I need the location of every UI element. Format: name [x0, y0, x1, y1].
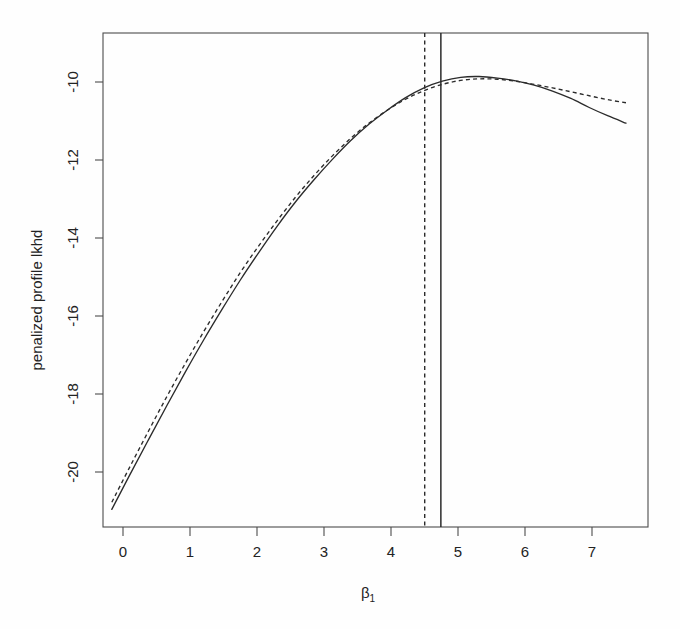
y-tick-label: -16 — [64, 305, 81, 327]
y-tick-label: -20 — [64, 461, 81, 483]
x-tick-label: 7 — [588, 543, 596, 560]
x-tick-label: 1 — [186, 543, 194, 560]
y-axis-ticks — [95, 82, 103, 472]
y-tick-label: -10 — [64, 71, 81, 93]
y-tick-label: -12 — [64, 149, 81, 171]
x-axis-ticks — [123, 527, 592, 536]
y-axis-tick-labels: -10 -12 -14 -16 -18 -20 — [64, 71, 81, 483]
plot-frame — [103, 33, 648, 527]
y-tick-label: -18 — [64, 383, 81, 405]
x-axis-title-subscript: 1 — [370, 593, 376, 604]
x-tick-label: 3 — [320, 543, 328, 560]
x-tick-label: 2 — [253, 543, 261, 560]
x-axis-title: β1 — [361, 584, 376, 604]
x-tick-label: 5 — [454, 543, 462, 560]
figure-panel: -10 -12 -14 -16 -18 -20 penalized profil… — [0, 0, 680, 629]
y-tick-label: -14 — [64, 227, 81, 249]
y-axis-title: penalized profile lkhd — [28, 230, 45, 371]
x-tick-label: 4 — [387, 543, 395, 560]
x-axis-tick-labels: 0 1 2 3 4 5 6 7 — [119, 543, 596, 560]
profile-likelihood-chart: -10 -12 -14 -16 -18 -20 penalized profil… — [0, 0, 680, 629]
profile-likelihood-dashed-curve — [112, 79, 626, 503]
x-tick-label: 6 — [521, 543, 529, 560]
x-tick-label: 0 — [119, 543, 127, 560]
profile-likelihood-solid-curve — [112, 76, 626, 509]
